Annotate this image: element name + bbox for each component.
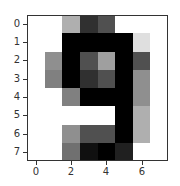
pixel-cell <box>115 52 133 70</box>
pixel-cell <box>133 52 151 70</box>
y-tick-label: 5 <box>10 110 20 120</box>
pixel-cell <box>45 70 63 88</box>
y-tick-label: 1 <box>10 37 20 47</box>
pixel-cell <box>62 70 80 88</box>
pixel-cell <box>115 106 133 124</box>
pixel-cell <box>27 88 45 106</box>
x-tick-label: 6 <box>136 167 148 177</box>
y-tick <box>23 24 27 25</box>
x-tick <box>106 161 107 165</box>
x-tick <box>71 161 72 165</box>
pixel-cell <box>27 70 45 88</box>
pixel-cell <box>98 143 116 161</box>
y-tick <box>23 79 27 80</box>
y-tick-label: 3 <box>10 74 20 84</box>
pixel-cell <box>115 143 133 161</box>
pixel-cell <box>98 52 116 70</box>
pixel-cell <box>45 15 63 33</box>
pixel-cell <box>150 125 168 143</box>
pixel-cell <box>133 15 151 33</box>
pixel-cell <box>80 15 98 33</box>
pixel-cell <box>45 52 63 70</box>
pixel-cell <box>115 15 133 33</box>
pixel-cell <box>45 125 63 143</box>
x-tick <box>142 161 143 165</box>
pixel-cell <box>62 15 80 33</box>
pixel-cell <box>80 125 98 143</box>
pixel-cell <box>27 15 45 33</box>
pixel-cell <box>150 15 168 33</box>
pixel-cell <box>98 15 116 33</box>
pixel-cell <box>133 143 151 161</box>
pixel-cell <box>45 33 63 51</box>
pixel-cell <box>115 125 133 143</box>
pixel-cell <box>150 106 168 124</box>
pixel-cell <box>62 52 80 70</box>
pixel-cell <box>80 52 98 70</box>
y-tick-label: 7 <box>10 147 20 157</box>
pixel-cell <box>133 125 151 143</box>
pixel-cell <box>27 106 45 124</box>
pixel-cell <box>133 70 151 88</box>
pixel-cell <box>45 143 63 161</box>
pixel-cell <box>150 143 168 161</box>
pixel-cell <box>115 33 133 51</box>
pixel-cell <box>98 70 116 88</box>
pixel-cell <box>62 143 80 161</box>
image-grid <box>27 15 168 161</box>
pixel-cell <box>80 106 98 124</box>
figure: 0 1 2 3 4 5 6 7 0 2 4 6 <box>0 0 180 186</box>
pixel-cell <box>45 88 63 106</box>
x-tick-label: 0 <box>30 167 42 177</box>
pixel-cell <box>150 33 168 51</box>
pixel-cell <box>62 33 80 51</box>
pixel-cell <box>27 143 45 161</box>
pixel-cell <box>27 52 45 70</box>
pixel-cell <box>98 88 116 106</box>
pixel-cell <box>150 70 168 88</box>
pixel-cell <box>115 70 133 88</box>
x-tick-label: 2 <box>65 167 77 177</box>
pixel-cell <box>80 70 98 88</box>
pixel-cell <box>98 106 116 124</box>
y-tick <box>23 134 27 135</box>
y-tick <box>23 97 27 98</box>
pixel-cell <box>27 125 45 143</box>
y-tick-label: 4 <box>10 92 20 102</box>
y-tick <box>23 60 27 61</box>
pixel-cell <box>62 125 80 143</box>
pixel-cell <box>80 33 98 51</box>
y-tick-label: 6 <box>10 129 20 139</box>
pixel-cell <box>98 33 116 51</box>
y-tick-label: 0 <box>10 19 20 29</box>
pixel-cell <box>62 106 80 124</box>
pixel-cell <box>80 143 98 161</box>
pixel-cell <box>133 88 151 106</box>
y-tick-label: 2 <box>10 55 20 65</box>
y-tick <box>23 115 27 116</box>
pixel-cell <box>150 88 168 106</box>
pixel-cell <box>115 88 133 106</box>
pixel-cell <box>27 33 45 51</box>
x-tick <box>36 161 37 165</box>
plot-area <box>27 15 168 161</box>
pixel-cell <box>98 125 116 143</box>
pixel-cell <box>133 106 151 124</box>
pixel-cell <box>150 52 168 70</box>
pixel-cell <box>62 88 80 106</box>
x-tick-label: 4 <box>100 167 112 177</box>
pixel-cell <box>80 88 98 106</box>
y-tick <box>23 42 27 43</box>
pixel-cell <box>133 33 151 51</box>
pixel-cell <box>45 106 63 124</box>
y-tick <box>23 152 27 153</box>
